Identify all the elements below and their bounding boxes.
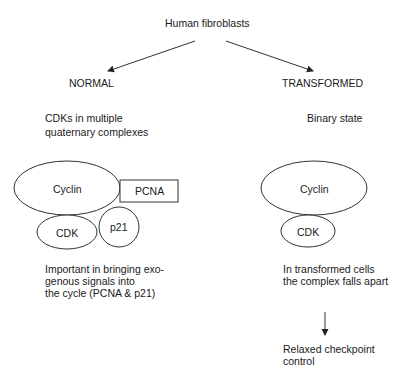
normal-cyclin-label: Cyclin [53,183,82,195]
outcome-line-1: Relaxed checkpoint [283,343,375,355]
normal-pcna-label: PCNA [135,185,164,197]
transformed-note-line-2: the complex falls apart [283,275,388,287]
transformed-note-line-1: In transformed cells [283,263,375,275]
normal-note-line-2: genous signals into [45,275,135,287]
arrow-to-normal [108,41,195,71]
transformed-description: Binary state [307,112,362,124]
diagram-title: Human fibroblasts [165,17,250,29]
arrow-to-transformed [226,41,313,71]
normal-description-line-2: quaternary complexes [45,126,148,138]
transformed-cdk-label: CDK [297,226,319,238]
outcome-line-2: control [283,355,315,367]
normal-note-line-1: Important in bringing exo- [45,263,164,275]
normal-note-line-3: the cycle (PCNA & p21) [45,287,155,299]
transformed-heading: TRANSFORMED [282,77,363,89]
normal-p21-label: p21 [110,221,128,233]
normal-heading: NORMAL [69,77,114,89]
transformed-cyclin-label: Cyclin [300,183,329,195]
normal-description-line-1: CDKs in multiple [45,112,123,124]
normal-cdk-label: CDK [56,227,78,239]
